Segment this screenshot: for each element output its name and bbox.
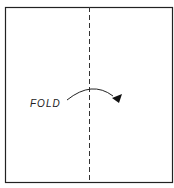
fold-label: FOLD	[30, 98, 61, 109]
arrow-head-icon	[112, 94, 122, 103]
fold-diagram	[0, 0, 174, 188]
